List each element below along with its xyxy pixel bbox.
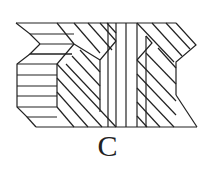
figure-label: C — [0, 129, 215, 163]
left-horizontal-region — [16, 23, 74, 127]
center-left-diagonal-region — [57, 23, 116, 127]
